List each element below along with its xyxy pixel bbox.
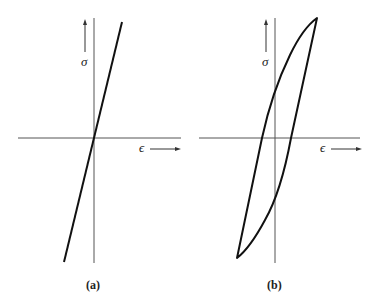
panel-a-stress-strain-line bbox=[64, 22, 122, 262]
panel-b-plot bbox=[199, 18, 362, 263]
panel-a-plot bbox=[18, 18, 181, 263]
panel-a-caption: (a) bbox=[86, 278, 100, 293]
panel-b-epsilon-arrowhead-icon bbox=[356, 147, 362, 151]
panel-a-epsilon-arrowhead-icon bbox=[175, 147, 181, 151]
panel-a-epsilon-label: ϵ bbox=[139, 140, 144, 156]
panel-b-caption: (b) bbox=[267, 278, 282, 293]
panel-b-sigma-label: σ bbox=[262, 54, 268, 70]
panel-b-epsilon-label: ϵ bbox=[320, 140, 325, 156]
panel-a-sigma-label: σ bbox=[81, 54, 87, 70]
figure-canvas bbox=[0, 0, 374, 301]
panel-b-sigma-arrowhead-icon bbox=[264, 19, 268, 25]
panel-a-sigma-arrowhead-icon bbox=[83, 19, 87, 25]
